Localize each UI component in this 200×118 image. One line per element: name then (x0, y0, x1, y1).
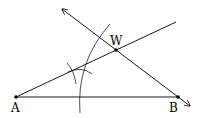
label-a: A (10, 101, 20, 115)
point-b (176, 95, 180, 99)
construction-arc-small-2 (68, 69, 92, 74)
line-wb (62, 9, 190, 106)
bisector-ray (16, 22, 176, 97)
point-w (114, 48, 118, 52)
point-a (14, 95, 18, 99)
label-b: B (169, 101, 178, 115)
label-w: W (110, 34, 123, 48)
geometry-diagram: A B W (0, 0, 200, 118)
construction-arc-small-1 (67, 63, 76, 84)
construction-arc-large (80, 24, 110, 113)
